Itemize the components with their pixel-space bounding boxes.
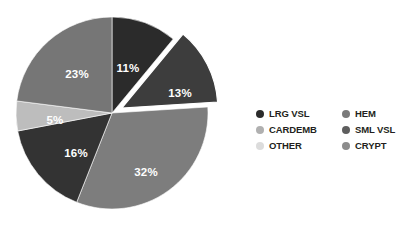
pie-slice-label-lrg-vsl: 11% bbox=[117, 62, 140, 74]
pie-slice-label-cardemb: 23% bbox=[65, 68, 89, 80]
legend-label-other: OTHER bbox=[269, 140, 302, 151]
legend-item-lrg-vsl[interactable]: LRG VSL bbox=[256, 107, 330, 120]
legend-swatch-icon-cardemb bbox=[256, 126, 264, 134]
legend-label-lrg-vsl: LRG VSL bbox=[269, 108, 309, 119]
legend-swatch-icon-lrg-vsl bbox=[256, 110, 264, 118]
legend-label-cardemb: CARDEMB bbox=[269, 124, 317, 135]
legend-label-sml-vsl: SML VSL bbox=[355, 124, 395, 135]
legend-item-sml-vsl[interactable]: SML VSL bbox=[342, 123, 406, 136]
pie-slice-label-sml-vsl: 32% bbox=[134, 166, 158, 178]
pie-chart-plot-area: 11%13%32%16%5%23% bbox=[0, 0, 240, 228]
legend-label-crypt: CRYPT bbox=[355, 140, 386, 151]
pie-chart-figure: 11%13%32%16%5%23% LRG VSL CARDEMB OTHER … bbox=[0, 0, 409, 228]
legend-item-crypt[interactable]: CRYPT bbox=[342, 139, 406, 152]
legend-column-right: HEM SML VSL CRYPT bbox=[342, 107, 406, 152]
chart-legend: LRG VSL CARDEMB OTHER HEM SML VSL C bbox=[256, 107, 406, 152]
legend-swatch-icon-crypt bbox=[342, 142, 350, 150]
legend-column-left: LRG VSL CARDEMB OTHER bbox=[256, 107, 330, 152]
pie-slice-label-hem: 13% bbox=[168, 87, 192, 99]
legend-item-cardemb[interactable]: CARDEMB bbox=[256, 123, 330, 136]
pie-slice-cardemb[interactable] bbox=[17, 17, 112, 113]
legend-swatch-icon-hem bbox=[342, 110, 350, 118]
pie-slice-label-crypt: 16% bbox=[64, 147, 88, 159]
pie-slice-group bbox=[16, 17, 218, 209]
pie-chart-svg: 11%13%32%16%5%23% bbox=[0, 0, 240, 228]
legend-swatch-icon-sml-vsl bbox=[342, 126, 350, 134]
pie-slice-label-other: 5% bbox=[46, 114, 63, 126]
legend-item-hem[interactable]: HEM bbox=[342, 107, 406, 120]
legend-label-hem: HEM bbox=[355, 108, 376, 119]
legend-swatch-icon-other bbox=[256, 142, 264, 150]
legend-item-other[interactable]: OTHER bbox=[256, 139, 330, 152]
